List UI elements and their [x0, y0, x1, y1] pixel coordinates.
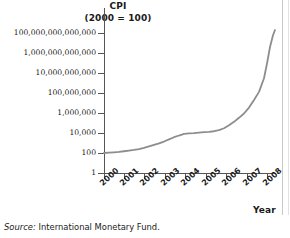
source-note: Source: International Monetary Fund.: [4, 222, 160, 232]
cpi-series-plot: [0, 0, 290, 238]
x-axis-title: Year: [253, 205, 276, 215]
cpi-data-line: [104, 30, 275, 153]
cpi-hyperinflation-chart-figure: CPI (2000 = 100) 100,000,000,000,000 1,0…: [0, 0, 290, 238]
source-text: International Monetary Fund.: [38, 222, 159, 232]
source-label: Source:: [4, 222, 36, 232]
